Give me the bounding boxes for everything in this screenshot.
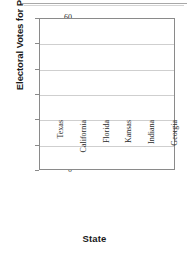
gridline-50 — [40, 44, 174, 45]
x-axis-title: State — [0, 233, 189, 244]
x-axis-category-georgia: Georgia — [169, 120, 180, 172]
y-axis-title: Electoral Votes for President — [13, 0, 27, 107]
x-axis-category-florida: Florida — [101, 120, 112, 172]
x-axis-category-kansas: Kansas — [123, 120, 134, 172]
x-axis-category-texas: Texas — [55, 120, 66, 172]
gridline-40 — [40, 70, 174, 71]
x-axis-category-california: California — [78, 120, 89, 172]
scan-artifact-line-top — [21, 3, 187, 4]
y-tick-mark-0 — [35, 170, 39, 171]
x-axis-category-indiana: Indiana — [146, 120, 157, 172]
gridline-30 — [40, 95, 174, 96]
scan-artifact-line-secondary — [24, 5, 184, 6]
